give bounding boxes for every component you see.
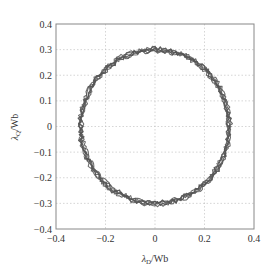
y-tick-label: 0.3 [40, 44, 53, 55]
x-axis-ticks: −0.4−0.200.20.4 [47, 233, 260, 244]
y-tick-label: −0.4 [34, 224, 52, 235]
x-tick-label: 0.2 [198, 233, 211, 244]
x-axis-label: λD/Wb [141, 253, 169, 266]
x-tick-label: −0.2 [96, 233, 114, 244]
flux-trajectory-chart: −0.4−0.200.20.4 0.40.30.20.10−0.1−0.2−0.… [0, 0, 272, 273]
y-tick-label: −0.3 [34, 198, 52, 209]
y-axis-label: λQ/Wb [9, 114, 22, 142]
y-tick-label: 0.2 [40, 70, 53, 81]
y-tick-label: 0.1 [40, 95, 53, 106]
y-tick-label: −0.2 [34, 172, 52, 183]
x-tick-label: −0.4 [47, 233, 65, 244]
y-tick-label: 0.4 [40, 19, 53, 30]
x-tick-label: 0.4 [248, 233, 261, 244]
y-tick-label: 0 [47, 121, 52, 132]
y-axis-ticks: 0.40.30.20.10−0.1−0.2−0.3−0.4 [34, 19, 52, 235]
y-tick-label: −0.1 [34, 147, 52, 158]
x-tick-label: 0 [153, 233, 158, 244]
grid-lines [56, 24, 254, 229]
